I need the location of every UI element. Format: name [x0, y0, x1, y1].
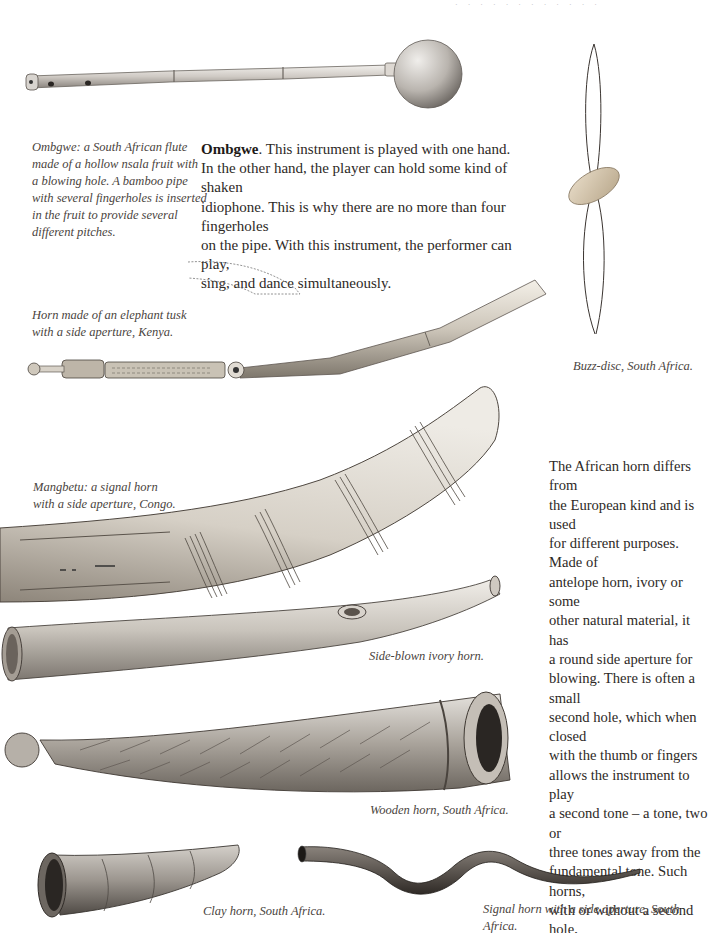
- side-blown-horn-illustration: [0, 580, 510, 685]
- ombgwe-heading: Ombgwe: [201, 141, 259, 157]
- paragraph-line: the European kind and is used: [549, 496, 711, 535]
- caption-line: a blowing hole. A bamboo pipe: [32, 173, 212, 190]
- caption-line: Ombgwe: a South African flute: [32, 139, 212, 156]
- caption-line: made of a hollow nsala fruit with: [32, 156, 212, 173]
- paragraph-line: The African horn differs from: [549, 457, 711, 496]
- buzz-disc-caption: Buzz-disc, South Africa.: [573, 358, 693, 375]
- caption-line: different pitches.: [32, 224, 212, 241]
- paragraph-line: other natural material, it has: [549, 611, 711, 650]
- wooden-horn-illustration: [0, 680, 520, 810]
- ombgwe-flute-illustration: [0, 30, 480, 110]
- tusk-horn-illustration: [0, 250, 560, 380]
- caption-line: with several fingerholes is inserted: [32, 190, 212, 207]
- page-header-fragment: · · · · · · · · · · · ·: [455, 0, 711, 6]
- wooden-horn-caption: Wooden horn, South Africa.: [370, 802, 509, 819]
- paragraph-line: . This instrument is played with one han…: [259, 141, 511, 157]
- paragraph-line: idiophone. This is why there are no more…: [201, 198, 541, 236]
- paragraph-line: allows the instrument to play: [549, 766, 711, 805]
- paragraph-line: antelope horn, ivory or some: [549, 573, 711, 612]
- paragraph-line: In the other hand, the player can hold s…: [201, 159, 541, 197]
- paragraph-line: a second tone – a tone, two or: [549, 804, 711, 843]
- ombgwe-caption: Ombgwe: a South African flute made of a …: [32, 139, 212, 241]
- side-blown-caption: Side-blown ivory horn.: [369, 648, 484, 665]
- paragraph-line: blowing. There is often a small: [549, 669, 711, 708]
- paragraph-line: with the thumb or fingers: [549, 746, 711, 765]
- signal-horn-caption: Signal horn with a side aperture, South …: [483, 901, 711, 933]
- caption-line: in the fruit to provide several: [32, 207, 212, 224]
- mangbetu-horn-illustration: [0, 370, 500, 610]
- paragraph-line: second hole, which when closed: [549, 708, 711, 747]
- signal-horn-illustration: [295, 843, 645, 903]
- clay-horn-caption: Clay horn, South Africa.: [203, 903, 325, 920]
- paragraph-line: a round side aperture for: [549, 650, 711, 669]
- paragraph-line: for different purposes. Made of: [549, 534, 711, 573]
